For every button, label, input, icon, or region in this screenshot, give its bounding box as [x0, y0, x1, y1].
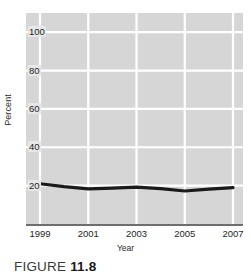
- y-tick-label: 80: [28, 65, 41, 76]
- vertical-gridlines: [40, 13, 233, 224]
- y-tick-label: 60: [28, 103, 41, 114]
- horizontal-gridlines: [26, 32, 243, 185]
- y-tick-label: 40: [28, 141, 41, 152]
- figure-caption: FIGURE 11.8: [14, 259, 97, 274]
- caption-word: FIGURE: [14, 259, 66, 274]
- x-axis-line: [26, 224, 243, 226]
- caption-number: 11.8: [70, 259, 96, 274]
- plot-area: [26, 13, 243, 224]
- x-tick-label: 2003: [120, 228, 154, 240]
- y-tick-label: 20: [28, 180, 41, 191]
- y-tick-label: 100: [28, 26, 46, 37]
- y-axis-title: Percent: [3, 80, 13, 140]
- x-tick-label: 2005: [168, 228, 202, 240]
- x-tick-label: 2001: [71, 228, 105, 240]
- x-tick-label: 2007: [216, 228, 250, 240]
- chart-svg: [26, 13, 243, 224]
- x-tick-label: 1999: [23, 228, 57, 240]
- x-axis-title: Year: [0, 243, 251, 253]
